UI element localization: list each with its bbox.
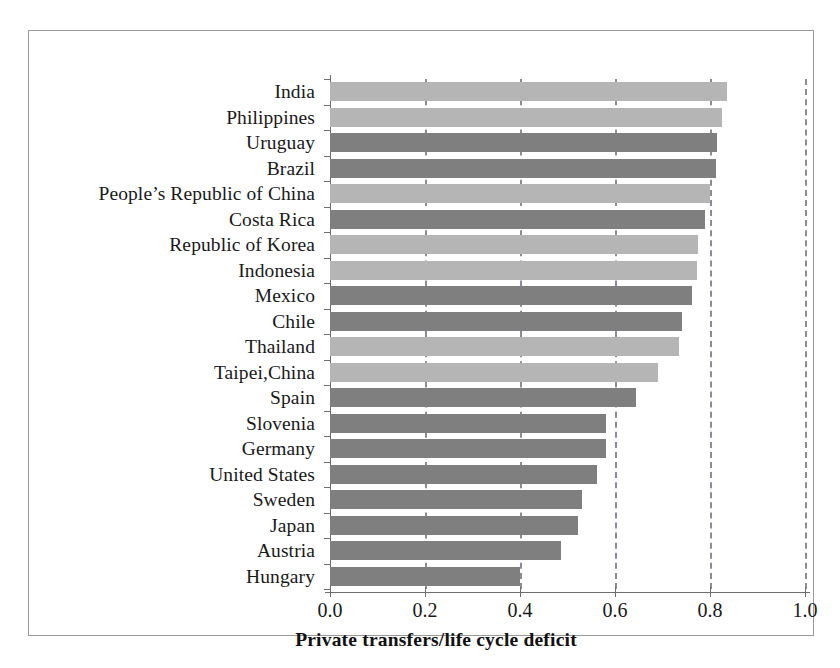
bar-germany [330, 439, 606, 458]
x-tick-label: 1.0 [770, 599, 840, 622]
category-label: Philippines [226, 105, 315, 131]
bar-philippines [330, 108, 722, 127]
bar-republic-of-korea [330, 235, 698, 254]
gridline-1.0 [805, 79, 807, 589]
category-label: Brazil [267, 156, 315, 182]
bar-austria [330, 541, 561, 560]
category-label: Hungary [246, 564, 315, 590]
x-tick-label: 0.4 [485, 599, 555, 622]
category-label: Indonesia [238, 258, 315, 284]
category-label: Japan [270, 513, 315, 539]
bar-thailand [330, 337, 679, 356]
bar-people-s-republic-of-china [330, 184, 710, 203]
x-axis-title: Private transfers/life cycle deficit [29, 629, 840, 651]
bar-chile [330, 312, 682, 331]
category-label: Republic of Korea [169, 232, 315, 258]
bar-row [330, 538, 805, 564]
x-tick-label: 0.8 [675, 599, 745, 622]
bar-row [330, 181, 805, 207]
x-tick [710, 587, 711, 597]
category-label: People’s Republic of China [98, 181, 315, 207]
bar-row [330, 130, 805, 156]
category-label: Thailand [245, 334, 315, 360]
category-label: Slovenia [246, 411, 315, 437]
bar-row [330, 258, 805, 284]
category-axis-labels: IndiaPhilippinesUruguayBrazilPeople’s Re… [59, 79, 324, 589]
category-label: Austria [257, 538, 315, 564]
bar-row [330, 283, 805, 309]
x-tick [425, 587, 426, 597]
category-label: Mexico [255, 283, 315, 309]
x-tick [520, 587, 521, 597]
bar-row [330, 513, 805, 539]
bar-uruguay [330, 133, 717, 152]
plot-area [330, 79, 805, 589]
x-tick [330, 587, 331, 597]
bar-row [330, 564, 805, 590]
bar-row [330, 79, 805, 105]
bar-united-states [330, 465, 597, 484]
bar-hungary [330, 567, 520, 586]
category-label: Taipei,China [214, 360, 315, 386]
bar-row [330, 487, 805, 513]
bar-row [330, 232, 805, 258]
bar-indonesia [330, 261, 697, 280]
bar-sweden [330, 490, 582, 509]
bar-india [330, 82, 727, 101]
bar-japan [330, 516, 578, 535]
category-label: Sweden [253, 487, 315, 513]
category-label: United States [209, 462, 315, 488]
bar-row [330, 207, 805, 233]
category-label: Spain [270, 385, 315, 411]
bar-row [330, 309, 805, 335]
x-tick [615, 587, 616, 597]
bar-row [330, 360, 805, 386]
bar-spain [330, 388, 636, 407]
bar-row [330, 462, 805, 488]
bar-row [330, 156, 805, 182]
bar-costa-rica [330, 210, 705, 229]
bar-brazil [330, 159, 716, 178]
x-tick [805, 587, 806, 597]
bar-row [330, 105, 805, 131]
value-axis-line [325, 592, 810, 593]
category-label: Uruguay [246, 130, 315, 156]
bar-taipei-china [330, 363, 658, 382]
x-tick-label: 0.2 [390, 599, 460, 622]
category-label: Chile [272, 309, 315, 335]
bar-row [330, 385, 805, 411]
bar-series [330, 79, 805, 589]
category-label: Costa Rica [229, 207, 315, 233]
bar-mexico [330, 286, 692, 305]
bar-row [330, 411, 805, 437]
x-tick-label: 0.6 [580, 599, 650, 622]
bar-slovenia [330, 414, 606, 433]
x-tick-label: 0.0 [295, 599, 365, 622]
figure: IndiaPhilippinesUruguayBrazilPeople’s Re… [0, 0, 840, 668]
chart-frame: IndiaPhilippinesUruguayBrazilPeople’s Re… [28, 30, 814, 636]
category-label: Germany [242, 436, 315, 462]
category-label: India [274, 79, 315, 105]
bar-row [330, 334, 805, 360]
bar-row [330, 436, 805, 462]
